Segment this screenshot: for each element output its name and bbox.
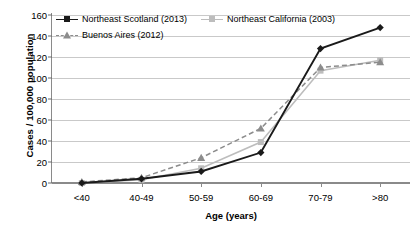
y-tick-label-160: 160 (31, 10, 47, 21)
series-line (82, 62, 380, 182)
x-tick-label: 60-69 (249, 192, 273, 203)
legend-swatch-icon (56, 14, 78, 24)
x-axis-title: Age (years) (52, 210, 410, 221)
line-chart: Cases / 100,000 population 0204060801001… (0, 0, 420, 231)
data-point-marker (258, 139, 264, 145)
legend-entry-2[interactable]: Buenos Aires (2012) (56, 30, 164, 40)
chart-legend: Northeast Scotland (2013)Northeast Calif… (56, 11, 408, 43)
x-tick-mark (321, 183, 322, 187)
y-tick-label-20: 20 (36, 157, 47, 168)
legend-entry-1[interactable]: Northeast California (2003) (201, 14, 335, 24)
x-tick-mark (380, 183, 381, 187)
legend-entry-0[interactable]: Northeast Scotland (2013) (56, 14, 187, 24)
y-tick-label-80: 80 (36, 94, 47, 105)
legend-label: Northeast California (2003) (227, 14, 335, 24)
y-tick-label-40: 40 (36, 136, 47, 147)
x-tick-label: <40 (74, 192, 90, 203)
legend-row: Northeast Scotland (2013)Northeast Calif… (56, 11, 408, 27)
x-tick-mark (261, 183, 262, 187)
y-tick-label-0: 0 (42, 178, 47, 189)
x-tick-label: 70-79 (308, 192, 332, 203)
y-tick-label-120: 120 (31, 52, 47, 63)
x-tick-label: 50-59 (189, 192, 213, 203)
x-tick-mark (142, 183, 143, 187)
legend-row: Buenos Aires (2012) (56, 27, 408, 43)
x-tick-label: 40-49 (129, 192, 153, 203)
y-tick-label-140: 140 (31, 31, 47, 42)
series-2 (78, 58, 384, 185)
series-0 (78, 24, 384, 187)
data-point-marker (197, 154, 205, 161)
y-tick-label-100: 100 (31, 73, 47, 84)
series-line (82, 28, 380, 183)
y-tick-label-60: 60 (36, 115, 47, 126)
series-line (82, 60, 380, 183)
legend-swatch-icon (201, 14, 223, 24)
x-tick-mark (201, 183, 202, 187)
legend-swatch-icon (56, 30, 78, 40)
legend-label: Northeast Scotland (2013) (82, 14, 187, 24)
x-tick-label: >80 (372, 192, 388, 203)
data-point-marker (317, 64, 325, 71)
legend-label: Buenos Aires (2012) (82, 30, 164, 40)
series-1 (79, 57, 383, 186)
